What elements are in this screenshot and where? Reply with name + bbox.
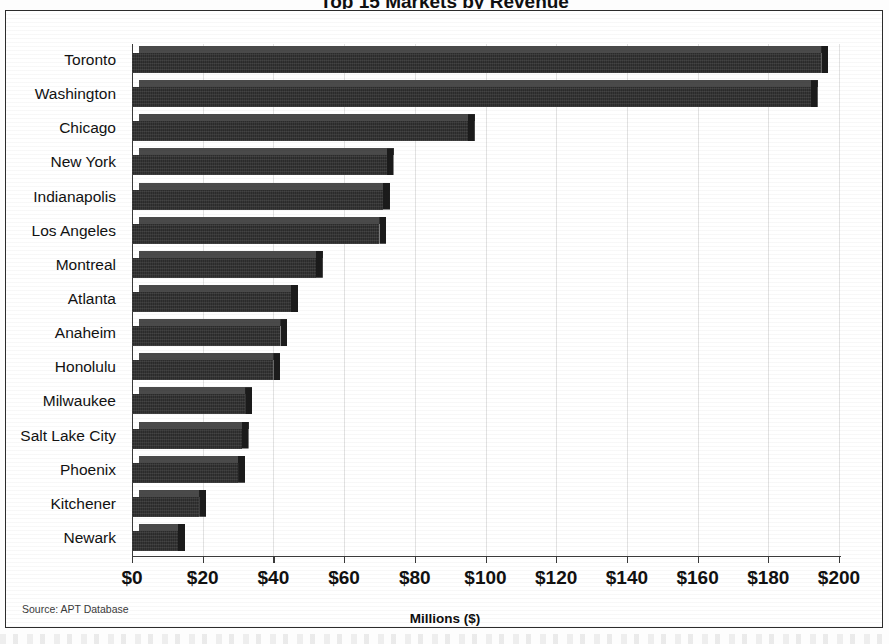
category-label: New York	[6, 153, 124, 171]
x-tick-label: $200	[799, 567, 879, 589]
chart-title-text: Top 15 Markets by Revenue	[320, 0, 569, 9]
bar-front-face	[132, 155, 387, 175]
figure-frame: TorontoWashingtonChicagoNew YorkIndianap…	[5, 10, 883, 628]
bar-side-face	[468, 114, 475, 141]
x-tick-label: $80	[375, 567, 455, 589]
bar-top-face	[139, 422, 249, 429]
bar-front-face	[132, 360, 273, 380]
x-axis-title: Millions ($)	[6, 611, 884, 626]
x-tick-label: $100	[446, 567, 526, 589]
bar-top-face	[139, 114, 475, 121]
gridline	[698, 44, 699, 556]
bar-front-face	[132, 497, 199, 517]
gridline	[768, 44, 769, 556]
bar-front-face	[132, 190, 383, 210]
bar-side-face	[238, 456, 245, 483]
category-label: Phoenix	[6, 461, 124, 479]
bar-side-face	[178, 524, 185, 551]
category-label: Milwaukee	[6, 392, 124, 410]
source-note: Source: APT Database	[22, 603, 129, 615]
x-tick-label: $160	[658, 567, 738, 589]
bar-top-face	[139, 456, 245, 463]
x-tickmark	[486, 556, 487, 563]
bar-front-face	[132, 292, 291, 312]
bar-side-face	[811, 80, 818, 107]
bar-front-face	[132, 429, 242, 449]
bar-side-face	[245, 387, 252, 414]
bar-top-face	[139, 148, 394, 155]
gridline	[839, 44, 840, 556]
category-label: Anaheim	[6, 324, 124, 342]
gridline	[556, 44, 557, 556]
bar-side-face	[383, 183, 390, 210]
x-tick-label: $0	[92, 567, 172, 589]
category-label: Chicago	[6, 119, 124, 137]
category-label: Honolulu	[6, 358, 124, 376]
bar-side-face	[242, 422, 249, 449]
x-tick-label: $60	[304, 567, 384, 589]
x-tickmark	[768, 556, 769, 563]
bar-top-face	[139, 285, 298, 292]
x-tick-label: $180	[728, 567, 808, 589]
category-label: Washington	[6, 85, 124, 103]
bar-front-face	[132, 224, 379, 244]
bar-front-face	[132, 53, 821, 73]
x-tickmark	[415, 556, 416, 563]
category-label: Salt Lake City	[6, 427, 124, 445]
bar-side-face	[379, 217, 386, 244]
bar-top-face	[139, 183, 390, 190]
category-label: Kitchener	[6, 495, 124, 513]
category-label: Los Angeles	[6, 222, 124, 240]
bar-side-face	[291, 285, 298, 312]
bar-top-face	[139, 387, 252, 394]
category-label: Newark	[6, 529, 124, 547]
bar-front-face	[132, 87, 811, 107]
x-tick-label: $140	[587, 567, 667, 589]
x-tickmark	[344, 556, 345, 563]
cropped-chart-title: Top 15 Markets by Revenue	[0, 0, 889, 9]
bar-top-face	[139, 217, 386, 224]
bar-top-face	[139, 490, 206, 497]
bar-side-face	[273, 353, 280, 380]
bar-top-face	[139, 319, 287, 326]
x-tick-label: $20	[163, 567, 243, 589]
bar-side-face	[199, 490, 206, 517]
bar-top-face	[139, 46, 828, 53]
bar-top-face	[139, 80, 818, 87]
category-label: Toronto	[6, 51, 124, 69]
x-tickmark	[273, 556, 274, 563]
bar-front-face	[132, 394, 245, 414]
bar-front-face	[132, 326, 280, 346]
x-tick-label: $120	[516, 567, 596, 589]
bar-top-face	[139, 251, 323, 258]
x-tickmark	[839, 556, 840, 563]
bar-front-face	[132, 531, 178, 551]
bar-top-face	[139, 353, 280, 360]
x-tickmark	[627, 556, 628, 563]
x-tickmark	[132, 556, 133, 563]
gridline	[486, 44, 487, 556]
category-label: Atlanta	[6, 290, 124, 308]
category-label: Montreal	[6, 256, 124, 274]
bar-side-face	[821, 46, 828, 73]
x-tickmark	[203, 556, 204, 563]
category-label: Indianapolis	[6, 188, 124, 206]
bar-front-face	[132, 258, 316, 278]
bar-front-face	[132, 463, 238, 483]
gridline	[627, 44, 628, 556]
chart-screenshot: Top 15 Markets by Revenue TorontoWashing…	[0, 0, 889, 644]
x-tickmark	[698, 556, 699, 563]
bar-front-face	[132, 121, 468, 141]
scan-edge-artifact	[0, 634, 889, 644]
bar-side-face	[280, 319, 287, 346]
bar-side-face	[316, 251, 323, 278]
bar-side-face	[387, 148, 394, 175]
x-tickmark	[556, 556, 557, 563]
x-tick-label: $40	[233, 567, 313, 589]
